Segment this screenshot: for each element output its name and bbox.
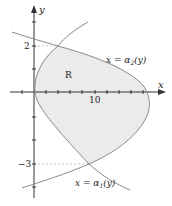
diagram-canvas: y x 10 2 −3 R x = α2(y) x = α1(y): [0, 0, 172, 206]
x-axis-label: x: [158, 79, 164, 90]
y-tick-label-neg3: −3: [18, 159, 32, 169]
region-label: R: [65, 70, 72, 80]
x-tick-label-10: 10: [89, 95, 101, 105]
curve-alpha2-label: x = α2(y): [106, 55, 147, 66]
y-tick-label-2: 2: [24, 41, 30, 51]
y-axis-label: y: [38, 4, 45, 15]
region-diagram: y x 10 2 −3 R x = α2(y) x = α1(y): [0, 0, 172, 206]
y-axis-arrow-icon: [31, 5, 37, 13]
curve-alpha1-label: x = α1(y): [75, 178, 116, 189]
